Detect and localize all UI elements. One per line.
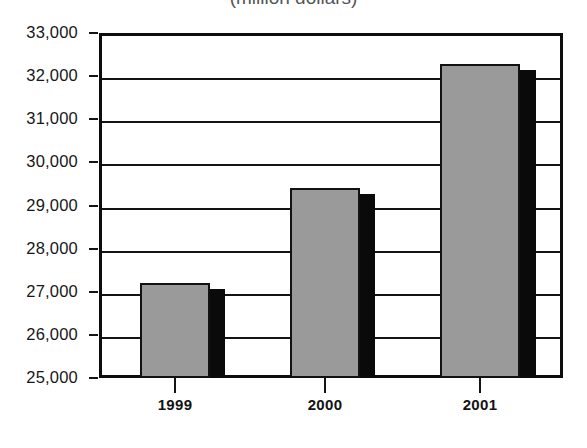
y-axis-label: 25,000 [26, 368, 78, 387]
bar-face-2000 [290, 188, 360, 378]
bar-2000 [290, 188, 375, 378]
y-axis-label: 26,000 [26, 325, 78, 344]
bar-shadow-2000 [360, 194, 375, 378]
y-tick-mark [89, 377, 98, 379]
y-tick-mark [89, 118, 98, 120]
y-axis-label: 33,000 [26, 23, 78, 42]
chart-title: (million dollars) [0, 0, 587, 9]
y-axis-label: 29,000 [26, 196, 78, 215]
bar-chart: (million dollars) 25,00026,00027,00028,0… [0, 0, 587, 448]
bar-2001 [440, 64, 536, 378]
x-axis-label-1999: 1999 [135, 396, 215, 413]
y-axis-label: 27,000 [26, 282, 78, 301]
y-tick-mark [89, 248, 98, 250]
bar-shadow-2001 [520, 70, 536, 378]
y-axis: 25,00026,00027,00028,00029,00030,00031,0… [0, 0, 78, 448]
y-axis-label: 30,000 [26, 152, 78, 171]
y-tick-mark [89, 205, 98, 207]
y-tick-mark [89, 32, 98, 34]
y-tick-mark [89, 161, 98, 163]
y-tick-mark [89, 334, 98, 336]
y-axis-label: 28,000 [26, 239, 78, 258]
y-axis-label: 31,000 [26, 109, 78, 128]
bar-face-1999 [140, 283, 210, 378]
x-tick-mark [479, 378, 481, 393]
x-tick-mark [174, 378, 176, 393]
x-axis-label-2000: 2000 [285, 396, 365, 413]
y-tick-mark [89, 291, 98, 293]
y-tick-mark [89, 75, 98, 77]
bar-shadow-1999 [210, 289, 225, 378]
y-axis-label: 32,000 [26, 66, 78, 85]
x-axis-label-2001: 2001 [440, 396, 520, 413]
bar-1999 [140, 283, 225, 378]
bar-face-2001 [440, 64, 520, 378]
chart-title-clipped: (million dollars) [0, 0, 587, 11]
x-tick-mark [324, 378, 326, 393]
